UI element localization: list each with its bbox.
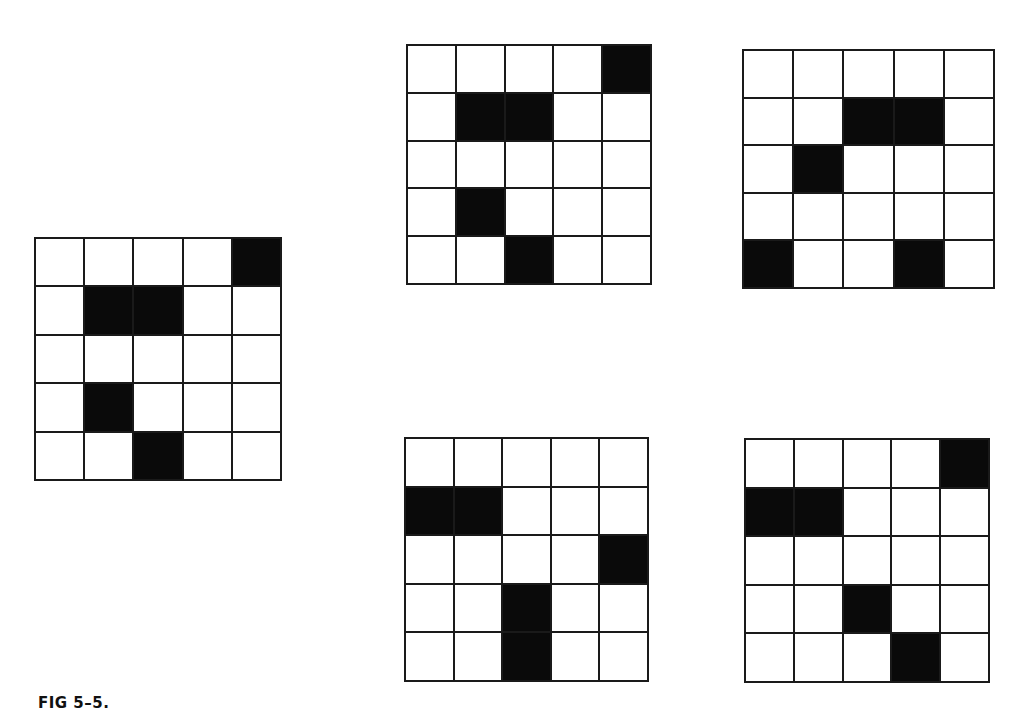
empty-cell <box>844 537 891 584</box>
grid-option-bottom-middle <box>404 437 649 682</box>
empty-cell <box>744 194 792 240</box>
empty-cell <box>408 189 455 235</box>
filled-cell <box>795 489 842 536</box>
empty-cell <box>233 384 280 430</box>
empty-cell <box>184 239 231 285</box>
empty-cell <box>744 99 792 145</box>
grid-option-bottom-right <box>744 438 990 683</box>
filled-cell <box>406 488 453 535</box>
grid-reference <box>34 237 282 481</box>
filled-cell <box>603 46 650 92</box>
filled-cell <box>506 94 553 140</box>
empty-cell <box>892 440 939 487</box>
empty-cell <box>552 488 599 535</box>
empty-cell <box>503 439 550 486</box>
filled-cell <box>503 633 550 680</box>
empty-cell <box>85 433 132 479</box>
empty-cell <box>603 237 650 283</box>
filled-cell <box>941 440 988 487</box>
empty-cell <box>895 51 943 97</box>
empty-cell <box>554 46 601 92</box>
empty-cell <box>794 99 842 145</box>
empty-cell <box>794 194 842 240</box>
empty-cell <box>895 146 943 192</box>
figure-caption: FIG 5–5. <box>38 694 109 712</box>
filled-cell <box>892 634 939 681</box>
empty-cell <box>600 633 647 680</box>
empty-cell <box>85 336 132 382</box>
empty-cell <box>457 46 504 92</box>
empty-cell <box>406 585 453 632</box>
empty-cell <box>744 51 792 97</box>
empty-cell <box>945 194 993 240</box>
filled-cell <box>455 488 502 535</box>
filled-cell <box>844 99 892 145</box>
empty-cell <box>455 585 502 632</box>
empty-cell <box>844 489 891 536</box>
empty-cell <box>184 336 231 382</box>
empty-cell <box>184 384 231 430</box>
empty-cell <box>892 537 939 584</box>
empty-cell <box>746 537 793 584</box>
empty-cell <box>552 633 599 680</box>
filled-cell <box>457 94 504 140</box>
filled-cell <box>744 241 792 287</box>
empty-cell <box>233 336 280 382</box>
empty-cell <box>746 440 793 487</box>
empty-cell <box>794 241 842 287</box>
empty-cell <box>746 634 793 681</box>
empty-cell <box>503 536 550 583</box>
empty-cell <box>406 633 453 680</box>
filled-cell <box>134 433 181 479</box>
empty-cell <box>746 586 793 633</box>
empty-cell <box>134 336 181 382</box>
empty-cell <box>945 99 993 145</box>
empty-cell <box>554 189 601 235</box>
filled-cell <box>895 241 943 287</box>
empty-cell <box>134 384 181 430</box>
empty-cell <box>941 489 988 536</box>
empty-cell <box>134 239 181 285</box>
empty-cell <box>503 488 550 535</box>
filled-cell <box>746 489 793 536</box>
empty-cell <box>941 634 988 681</box>
empty-cell <box>895 194 943 240</box>
empty-cell <box>506 142 553 188</box>
empty-cell <box>184 287 231 333</box>
empty-cell <box>554 237 601 283</box>
empty-cell <box>233 433 280 479</box>
empty-cell <box>554 94 601 140</box>
empty-cell <box>892 586 939 633</box>
empty-cell <box>36 384 83 430</box>
empty-cell <box>408 46 455 92</box>
empty-cell <box>892 489 939 536</box>
empty-cell <box>408 237 455 283</box>
filled-cell <box>134 287 181 333</box>
empty-cell <box>36 287 83 333</box>
empty-cell <box>455 536 502 583</box>
empty-cell <box>844 51 892 97</box>
empty-cell <box>941 586 988 633</box>
empty-cell <box>844 146 892 192</box>
filled-cell <box>895 99 943 145</box>
empty-cell <box>85 239 132 285</box>
cut-off-text-line <box>0 0 1019 5</box>
filled-cell <box>506 237 553 283</box>
empty-cell <box>794 51 842 97</box>
filled-cell <box>844 586 891 633</box>
empty-cell <box>408 142 455 188</box>
empty-cell <box>408 94 455 140</box>
empty-cell <box>795 586 842 633</box>
empty-cell <box>603 142 650 188</box>
empty-cell <box>600 585 647 632</box>
empty-cell <box>552 585 599 632</box>
empty-cell <box>600 439 647 486</box>
empty-cell <box>795 440 842 487</box>
empty-cell <box>36 336 83 382</box>
empty-cell <box>506 46 553 92</box>
empty-cell <box>795 537 842 584</box>
grid-option-top-right <box>742 49 995 289</box>
empty-cell <box>945 51 993 97</box>
empty-cell <box>184 433 231 479</box>
empty-cell <box>552 439 599 486</box>
